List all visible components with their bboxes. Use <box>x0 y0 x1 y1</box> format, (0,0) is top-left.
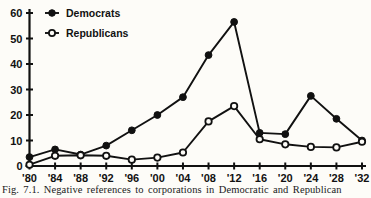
data-point-democrats <box>231 19 238 26</box>
y-tick-label: 30 <box>10 84 22 96</box>
y-tick-label: 0 <box>16 160 22 172</box>
data-point-democrats <box>128 127 135 134</box>
y-tick-label: 10 <box>10 135 22 147</box>
data-point-republicans <box>231 103 237 109</box>
x-tick-label: '32 <box>355 172 370 183</box>
data-point-democrats <box>154 112 161 119</box>
data-point-democrats <box>282 131 289 138</box>
x-tick-label: '28 <box>329 172 344 183</box>
chart-legend: DemocratsRepublicans <box>45 7 129 39</box>
data-point-democrats <box>26 154 33 161</box>
x-tick-label: '84 <box>48 172 64 183</box>
y-tick-label: 40 <box>10 58 22 70</box>
data-point-democrats <box>205 52 212 59</box>
y-tick-label: 50 <box>10 33 22 45</box>
x-tick-label: '08 <box>201 172 216 183</box>
data-point-democrats <box>307 92 314 99</box>
legend-marker-filled-circle-icon <box>49 10 56 17</box>
x-tick-label: '04 <box>176 172 192 183</box>
line-chart: DemocratsRepublicans 0102030405060'80'84… <box>0 0 371 183</box>
figure-caption: Fig. 7.1. Negative references to corpora… <box>0 183 371 196</box>
data-point-democrats <box>103 142 110 149</box>
figure-container: DemocratsRepublicans 0102030405060'80'84… <box>0 0 371 198</box>
data-point-republicans <box>308 144 314 150</box>
data-series <box>26 19 365 168</box>
x-tick-label: '24 <box>303 172 319 183</box>
data-point-republicans <box>359 139 365 145</box>
data-point-republicans <box>103 153 109 159</box>
legend-label: Democrats <box>66 7 120 19</box>
x-tick-label: '16 <box>252 172 267 183</box>
data-point-republicans <box>52 153 58 159</box>
data-point-republicans <box>180 149 186 155</box>
tick-labels: 0102030405060'80'84'88'92'96'00'04'08'12… <box>10 7 369 183</box>
x-tick-label: '80 <box>22 172 37 183</box>
legend-marker-open-circle-icon <box>49 30 55 36</box>
x-tick-label: '92 <box>99 172 114 183</box>
x-tick-label: '20 <box>278 172 293 183</box>
data-point-republicans <box>256 136 262 142</box>
y-tick-label: 20 <box>10 109 22 121</box>
data-point-republicans <box>205 118 211 124</box>
data-point-republicans <box>26 162 32 168</box>
x-tick-label: '00 <box>150 172 165 183</box>
x-tick-label: '12 <box>227 172 242 183</box>
data-point-republicans <box>333 144 339 150</box>
data-point-republicans <box>154 154 160 160</box>
legend-item-democrats: Democrats <box>45 7 120 19</box>
data-point-republicans <box>282 141 288 147</box>
data-point-republicans <box>77 152 83 158</box>
x-tick-label: '96 <box>124 172 139 183</box>
x-tick-label: '88 <box>73 172 88 183</box>
y-tick-label: 60 <box>10 7 22 19</box>
data-point-republicans <box>129 156 135 162</box>
legend-label: Republicans <box>66 27 129 39</box>
legend-item-republicans: Republicans <box>45 27 129 39</box>
data-point-democrats <box>333 115 340 122</box>
data-point-democrats <box>180 94 187 101</box>
